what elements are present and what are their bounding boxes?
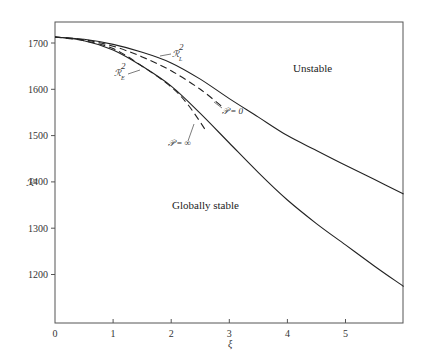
x-tick-label: 4 — [285, 328, 290, 339]
x-tick-label: 1 — [111, 328, 116, 339]
x-axis-ticks: 012345 — [53, 319, 349, 339]
y-axis-label: ℛ² — [26, 177, 38, 188]
y-tick-label: 1200 — [28, 269, 48, 280]
plot-frame — [55, 22, 403, 323]
svg-text:2: 2 — [121, 61, 126, 71]
x-tick-label: 0 — [53, 328, 58, 339]
curves — [55, 37, 404, 287]
curve-2 — [55, 37, 224, 108]
y-axis-ticks: 120013001400150016001700 — [28, 38, 55, 281]
label-P-infinity: 𝒫 = ∞ — [168, 124, 194, 148]
x-tick-label: 5 — [343, 328, 348, 339]
region-label-globally-stable: Globally stable — [172, 199, 239, 211]
svg-text:𝒫 = 0: 𝒫 = 0 — [222, 106, 244, 116]
x-tick-label: 2 — [169, 328, 174, 339]
y-tick-label: 1300 — [28, 223, 48, 234]
x-axis-label: ξ — [228, 338, 233, 350]
label-R-L: ℛL 2 — [160, 42, 184, 62]
svg-text:𝒫 = ∞: 𝒫 = ∞ — [168, 138, 191, 148]
y-tick-label: 1700 — [28, 38, 48, 49]
chart: 120013001400150016001700 012345 ℛ² ξ Uns… — [0, 0, 423, 362]
svg-text:2: 2 — [179, 42, 184, 52]
y-tick-label: 1500 — [28, 130, 48, 141]
label-R-E: ℛE 2 — [114, 61, 140, 81]
y-tick-label: 1600 — [28, 84, 48, 95]
curve-1 — [55, 37, 404, 287]
region-label-unstable: Unstable — [293, 62, 332, 74]
